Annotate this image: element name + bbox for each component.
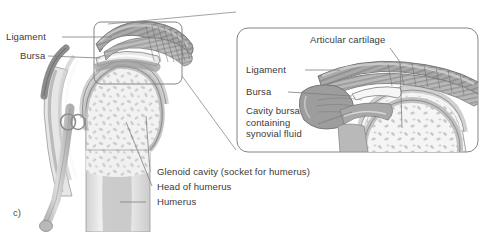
label-humerus: Humerus [157, 196, 196, 208]
label-glenoid-cavity: Glenoid cavity (socket for humerus) [157, 166, 310, 178]
inset-joint-drawing [299, 61, 480, 196]
label-inset-bursa: Bursa [246, 86, 271, 98]
label-head-of-humerus: Head of humerus [157, 181, 231, 193]
label-articular-cartilage: Articular cartilage [310, 34, 385, 46]
anatomy-illustration [0, 0, 488, 232]
label-cavity-bursa: Cavity bursa containing synovial fluid [246, 105, 322, 140]
label-bursa: Bursa [20, 50, 45, 62]
figure-id-label: c) [13, 207, 21, 218]
label-ligament: Ligament [6, 31, 46, 43]
label-inset-ligament: Ligament [246, 64, 286, 76]
figure-shoulder-joint: Ligament Bursa Glenoid cavity (socket fo… [0, 0, 488, 232]
